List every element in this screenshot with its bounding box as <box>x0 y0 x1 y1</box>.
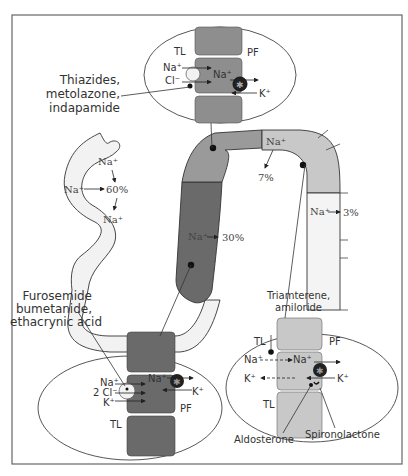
loop-na-cell: Na⁺ <box>148 373 167 384</box>
furosemide-label-3: ethacrynic acid <box>10 315 102 329</box>
triamterene-label-1: Triamterene, <box>266 290 330 301</box>
top-tl-label: TL <box>173 46 186 57</box>
nephron-diuretic-diagram: Na⁺ 7% Na⁺ 30% Na⁺ 3% Na⁺ Na⁺ 60% Na⁺ ✱ … <box>0 0 408 476</box>
cd-tl-bottom: TL <box>262 399 275 410</box>
distal-na-label: Na⁺ <box>266 136 286 147</box>
cd-na-cell: Na⁺ <box>293 354 312 365</box>
top-na-in: Na⁺ <box>163 62 182 73</box>
svg-text:✱: ✱ <box>316 366 324 376</box>
loop-k-right: K⁺ <box>192 386 204 397</box>
loop-pf-label: PF <box>180 403 192 414</box>
thiazides-label-1: Thiazides, <box>59 73 120 87</box>
distal-percent: 7% <box>258 172 274 183</box>
loop-percent: 30% <box>222 232 244 243</box>
thiazides-label-2: metolazone, <box>46 87 120 101</box>
furosemide-label-2: bumetanide, <box>16 302 92 316</box>
proximal-percent: 60% <box>106 184 128 195</box>
triamterene-label-2: amiloride <box>275 302 322 313</box>
top-k: K⁺ <box>259 88 271 99</box>
proximal-na-bottom: Na⁺ <box>103 214 123 225</box>
svg-text:✱: ✱ <box>236 80 244 90</box>
thiazides-label-3: indapamide <box>49 101 120 115</box>
loop-k-in: K⁺ <box>103 397 115 408</box>
proximal-na-top: Na⁺ <box>98 156 118 167</box>
proximal-na-left: Na⁺ <box>64 184 84 195</box>
loop-tl-label: TL <box>109 419 122 430</box>
collecting-percent: 3% <box>343 207 359 218</box>
collecting-na-label: Na⁺ <box>310 206 330 217</box>
cd-pf-label: PF <box>329 336 341 347</box>
cd-k-right: K⁺ <box>337 373 349 384</box>
loop-na-label: Na⁺ <box>188 231 208 242</box>
furosemide-label-1: Furosemide <box>22 289 92 303</box>
top-cl-in: Cl⁻ <box>165 75 180 86</box>
aldosterone-label: Aldosterone <box>234 434 294 445</box>
top-pf-label: PF <box>247 47 259 58</box>
top-na-cell: Na⁺ <box>213 69 232 80</box>
cd-na-left: Na⁺ <box>244 354 263 365</box>
cd-tl-top: TL <box>253 336 266 347</box>
cd-k-left: K⁺ <box>244 373 256 384</box>
svg-text:✱: ✱ <box>173 377 181 387</box>
spironolactone-label: Spironolactone <box>305 429 380 440</box>
